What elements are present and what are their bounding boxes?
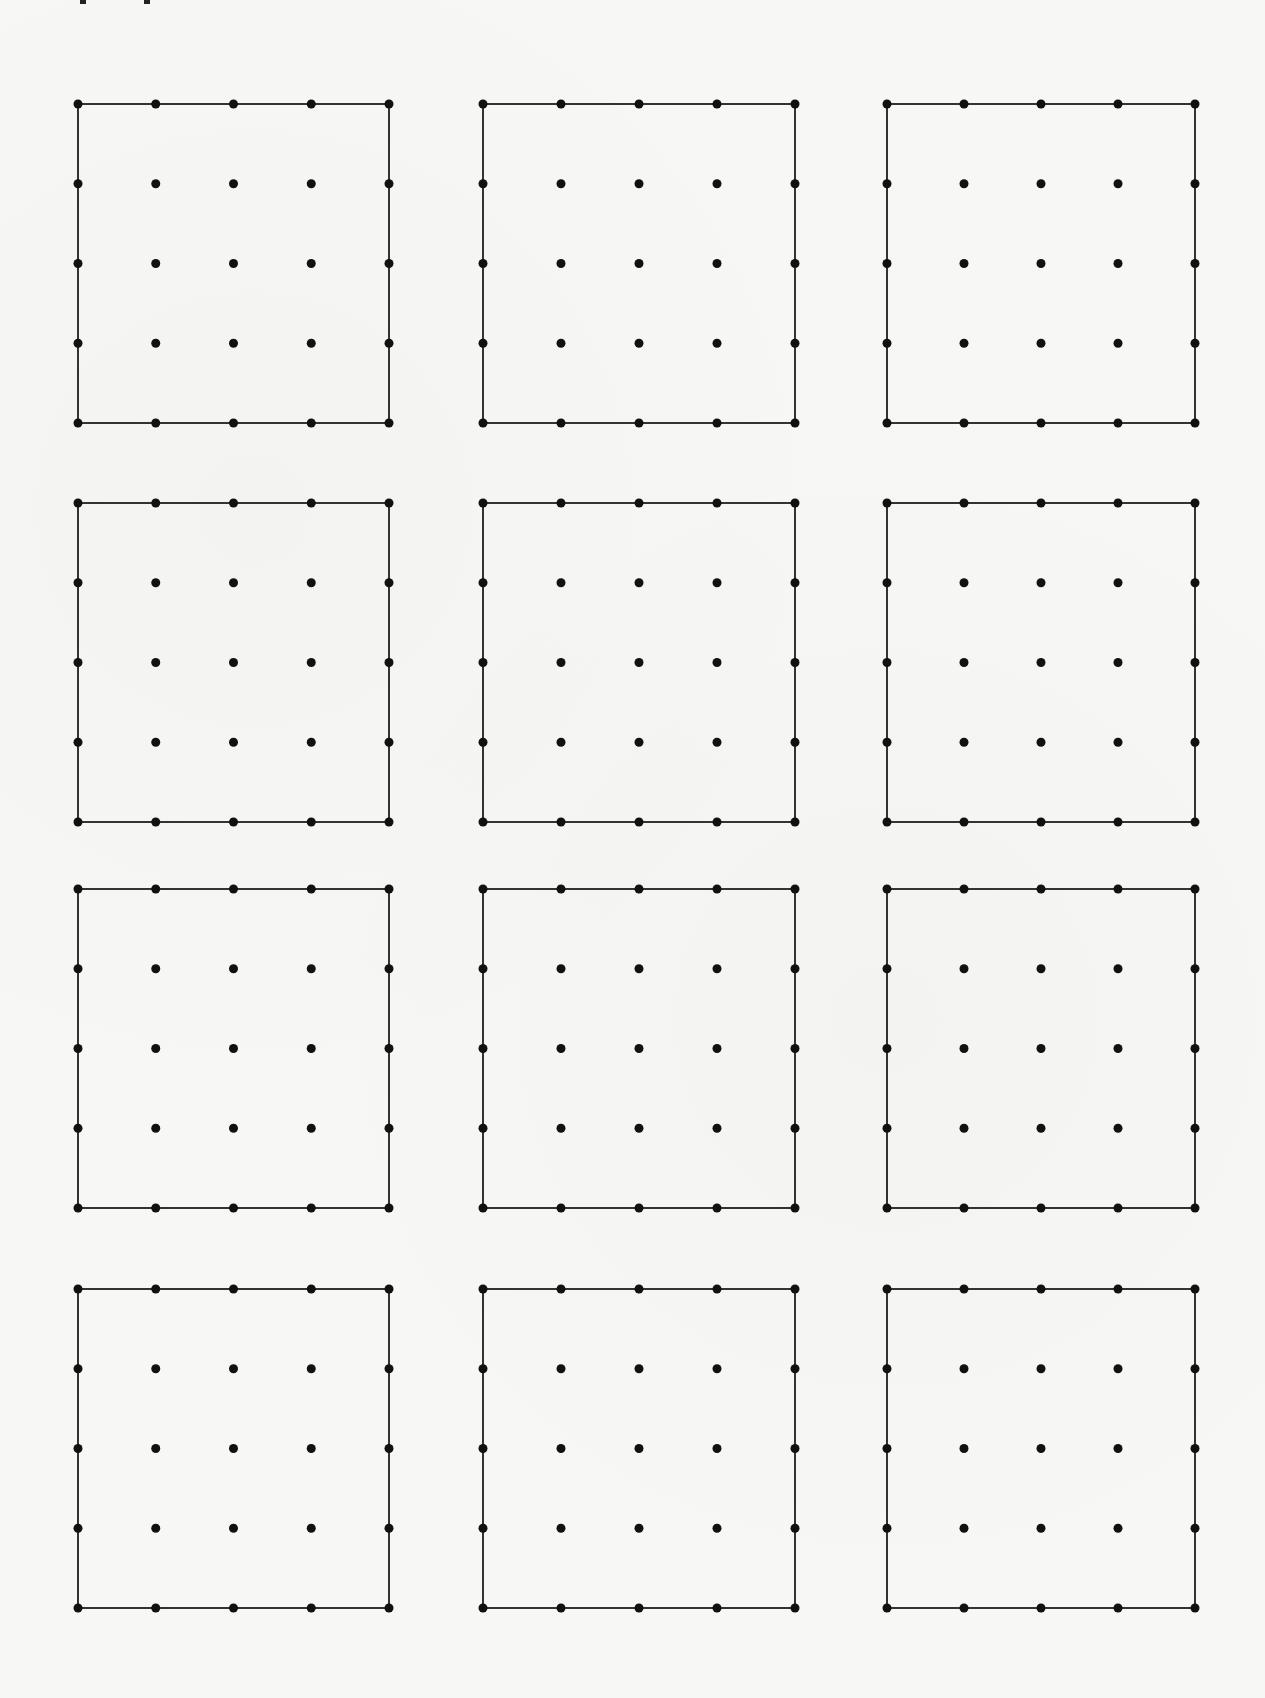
grid-dot-icon [229,1364,238,1373]
grid-dot-icon [307,1044,316,1053]
grid-dot-icon [74,1604,83,1613]
grid-dot-icon [713,1124,722,1133]
grid-dot-icon [229,658,238,667]
grid-dot-icon [883,1204,892,1213]
grid-dot-icon [229,259,238,268]
grid-dot-icon [74,578,83,587]
grid-dot-icon [151,1364,160,1373]
grid-dot-icon [307,658,316,667]
grid-dot-icon [960,179,969,188]
grid-dot-icon [229,1285,238,1294]
grid-dot-icon [883,1124,892,1133]
grid-dot-icon [385,1364,394,1373]
grid-dot-icon [479,259,488,268]
grid-dot-icon [74,1444,83,1453]
grid-dot-icon [635,738,644,747]
grid-dot-icon [479,964,488,973]
grid-dot-icon [385,259,394,268]
grid-dot-icon [791,1124,800,1133]
grid-dot-icon [557,818,566,827]
grid-dot-icon [1037,818,1046,827]
dot-grid-square-r4-c2 [483,1289,795,1608]
grid-dot-icon [1037,1444,1046,1453]
grid-dot-icon [1037,738,1046,747]
grid-dot-icon [557,658,566,667]
grid-dot-icon [791,1204,800,1213]
dot-grid-graphic [887,889,1195,1208]
grid-dot-icon [385,1524,394,1533]
grid-dot-icon [74,1285,83,1294]
grid-dot-icon [713,499,722,508]
grid-dot-icon [883,885,892,894]
grid-dot-icon [635,1044,644,1053]
grid-dot-icon [1191,1124,1200,1133]
grid-dot-icon [307,1604,316,1613]
grid-dot-icon [385,1124,394,1133]
grid-dot-icon [1191,738,1200,747]
grid-dot-icon [151,658,160,667]
grid-dot-icon [791,1524,800,1533]
grid-dot-icon [635,885,644,894]
grid-dot-icon [74,179,83,188]
grid-dot-icon [1191,1444,1200,1453]
grid-dot-icon [479,1524,488,1533]
grid-dot-icon [883,499,892,508]
grid-dot-icon [557,179,566,188]
grid-dot-icon [151,339,160,348]
grid-dot-icon [229,100,238,109]
grid-dot-icon [883,658,892,667]
grid-dot-icon [151,1044,160,1053]
grid-dot-icon [635,499,644,508]
grid-dot-icon [229,419,238,428]
grid-dot-icon [713,1044,722,1053]
grid-dot-icon [385,818,394,827]
dot-grid-square-r2-c3 [887,503,1195,822]
grid-dot-icon [557,738,566,747]
cropped-text-fragment [80,0,86,4]
grid-dot-icon [791,339,800,348]
grid-dot-icon [883,259,892,268]
grid-dot-icon [151,259,160,268]
dot-grid-square-r1-c3 [887,104,1195,423]
grid-dot-icon [151,419,160,428]
grid-dot-icon [229,885,238,894]
grid-dot-icon [883,964,892,973]
dot-grid-graphic [483,1289,795,1608]
grid-dot-icon [307,1285,316,1294]
grid-dot-icon [960,100,969,109]
grid-dot-icon [713,658,722,667]
grid-dot-icon [635,339,644,348]
dot-grid-square-r4-c1 [78,1289,389,1608]
grid-dot-icon [479,499,488,508]
grid-dot-icon [1114,885,1123,894]
grid-dot-icon [479,1124,488,1133]
grid-dot-icon [479,1364,488,1373]
grid-dot-icon [960,1124,969,1133]
grid-dot-icon [635,1524,644,1533]
grid-dot-icon [479,658,488,667]
grid-dot-icon [635,1364,644,1373]
grid-dot-icon [791,885,800,894]
dot-grid-square-r4-c3 [887,1289,1195,1608]
grid-dot-icon [960,964,969,973]
grid-dot-icon [557,339,566,348]
worksheet-page [0,0,1265,1698]
grid-dot-icon [557,1204,566,1213]
grid-dot-icon [1037,1044,1046,1053]
grid-dot-icon [557,885,566,894]
grid-dot-icon [307,419,316,428]
grid-dot-icon [1191,578,1200,587]
grid-dot-icon [883,578,892,587]
grid-dot-icon [385,1604,394,1613]
grid-dot-icon [1114,1604,1123,1613]
grid-dot-icon [151,1285,160,1294]
grid-dot-icon [791,1364,800,1373]
grid-dot-icon [307,1204,316,1213]
grid-dot-icon [229,818,238,827]
grid-dot-icon [74,885,83,894]
grid-dot-icon [1114,1364,1123,1373]
grid-dot-icon [1114,964,1123,973]
dot-grid-square-r3-c1 [78,889,389,1208]
grid-dot-icon [151,1604,160,1613]
grid-dot-icon [1114,1124,1123,1133]
